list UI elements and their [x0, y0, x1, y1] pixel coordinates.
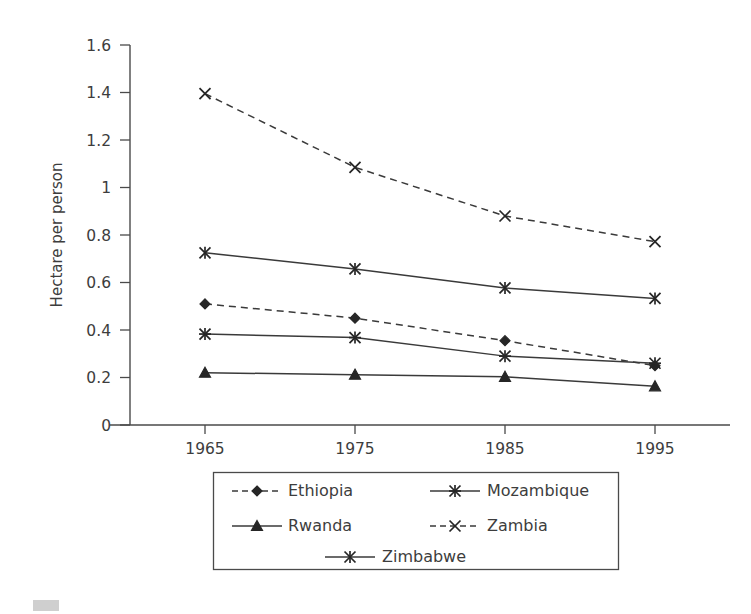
- data-point-star: [449, 485, 461, 497]
- y-tick-label: 1.4: [86, 84, 111, 102]
- series-rwanda: [200, 367, 661, 391]
- y-tick-label: 0.8: [86, 227, 111, 245]
- series-line: [205, 334, 655, 363]
- data-point-diamond: [500, 336, 510, 346]
- series-line: [205, 373, 655, 387]
- data-point-x: [200, 88, 211, 99]
- data-point-star: [349, 332, 361, 344]
- x-tick-label: 1995: [635, 440, 674, 458]
- y-axis-ticks: 00.20.40.60.811.21.41.6: [86, 37, 130, 435]
- line-chart: Hectare per person 00.20.40.60.811.21.41…: [0, 0, 751, 614]
- series-zimbabwe: [200, 247, 661, 305]
- y-tick-label: 0.4: [86, 322, 111, 340]
- legend-label: Mozambique: [487, 481, 589, 500]
- legend-label: Rwanda: [288, 516, 352, 535]
- x-tick-label: 1965: [185, 440, 224, 458]
- data-point-star: [499, 350, 511, 362]
- x-tick-label: 1985: [485, 440, 524, 458]
- legend-label: Zambia: [487, 516, 548, 535]
- series-mozambique: [199, 328, 661, 369]
- y-tick-label: 0.6: [86, 274, 111, 292]
- y-tick-label: 0: [101, 417, 111, 435]
- x-tick-label: 1975: [335, 440, 374, 458]
- y-tick-label: 1.2: [86, 132, 111, 150]
- series-layer: [199, 88, 661, 391]
- data-point-star: [199, 328, 211, 340]
- series-line: [205, 253, 655, 299]
- data-point-diamond: [350, 313, 360, 323]
- series-line: [205, 94, 655, 242]
- data-point-star: [649, 357, 661, 369]
- series-line: [205, 304, 655, 366]
- x-axis-ticks: 1965197519851995: [185, 425, 674, 458]
- chart-container: Hectare per person 00.20.40.60.811.21.41…: [0, 0, 751, 614]
- y-tick-label: 1.6: [86, 37, 111, 55]
- y-axis-title-text: Hectare per person: [48, 163, 66, 308]
- corner-artifact: [33, 600, 59, 611]
- series-zambia: [200, 88, 661, 247]
- data-point-x: [350, 162, 361, 173]
- y-axis-title: Hectare per person: [48, 163, 66, 308]
- data-point-diamond: [200, 299, 210, 309]
- y-tick-label: 1: [101, 179, 111, 197]
- legend-label: Zimbabwe: [382, 547, 466, 566]
- y-tick-label: 0.2: [86, 369, 111, 387]
- legend-label: Ethiopia: [288, 481, 353, 500]
